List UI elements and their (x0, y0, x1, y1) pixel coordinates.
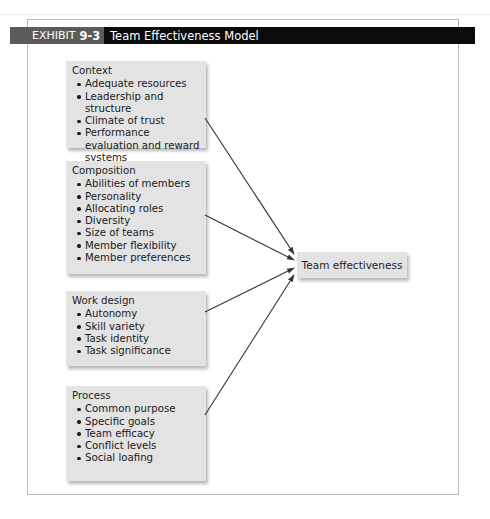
context-box: Context Adequate resources Leadership an… (66, 61, 206, 148)
composition-list: Abilities of members Personality Allocat… (72, 178, 201, 264)
list-item: Size of teams (72, 227, 201, 239)
exhibit-label: EXHIBIT 9-3 (10, 27, 104, 44)
context-heading: Context (72, 65, 201, 77)
list-item: Specific goals (72, 416, 201, 428)
list-item: Common purpose (72, 403, 201, 415)
composition-heading: Composition (72, 165, 201, 177)
list-item: Performance evaluation and reward system… (72, 127, 201, 164)
context-list: Adequate resources Leadership and struct… (72, 78, 201, 164)
list-item: Adequate resources (72, 78, 201, 90)
list-item: Climate of trust (72, 115, 201, 127)
exhibit-label-text: EXHIBIT (32, 29, 76, 42)
work-design-list: Autonomy Skill variety Task identity Tas… (72, 308, 201, 357)
list-item: Conflict levels (72, 440, 201, 452)
list-item: Task identity (72, 333, 201, 345)
list-item: Member preferences (72, 252, 201, 264)
list-item: Autonomy (72, 308, 201, 320)
process-heading: Process (72, 390, 201, 402)
list-item: Social loafing (72, 452, 201, 464)
list-item: Team efficacy (72, 428, 201, 440)
list-item: Task significance (72, 345, 201, 357)
process-box: Process Common purpose Specific goals Te… (66, 386, 206, 481)
work-design-heading: Work design (72, 295, 201, 307)
list-item: Member flexibility (72, 240, 201, 252)
exhibit-title: Team Effectiveness Model (104, 27, 475, 44)
process-list: Common purpose Specific goals Team effic… (72, 403, 201, 464)
team-effectiveness-box: Team effectiveness (297, 252, 407, 278)
work-design-box: Work design Autonomy Skill variety Task … (66, 291, 206, 366)
exhibit-number: 9-3 (80, 29, 101, 43)
exhibit-title-bar: EXHIBIT 9-3 Team Effectiveness Model (10, 27, 475, 44)
team-effectiveness-label: Team effectiveness (302, 259, 403, 271)
list-item: Personality (72, 191, 201, 203)
composition-box: Composition Abilities of members Persona… (66, 161, 206, 274)
top-rule (0, 14, 490, 15)
list-item: Leadership and structure (72, 91, 201, 116)
list-item: Diversity (72, 215, 201, 227)
list-item: Skill variety (72, 321, 201, 333)
list-item: Abilities of members (72, 178, 201, 190)
list-item: Allocating roles (72, 203, 201, 215)
